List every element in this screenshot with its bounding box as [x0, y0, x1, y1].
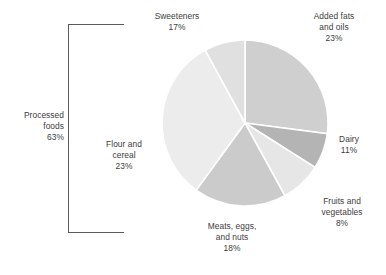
slice-label-added-fats-line2: and oils — [319, 22, 348, 32]
processed-foods-bracket — [68, 24, 124, 233]
slice-label-meats-eggs-and-nuts: Meats, eggs, and nuts 18% — [179, 221, 285, 255]
slice-label-flour-percent: 23% — [83, 161, 165, 172]
slice-label-meats-percent: 18% — [179, 243, 285, 254]
slice-label-fruits-line2: vegetables — [321, 207, 362, 217]
slice-label-added-fats-percent: 23% — [288, 33, 380, 44]
slice-label-sweeteners-text: Sweeteners — [155, 11, 200, 21]
slice-label-sweeteners: Sweeteners 17% — [131, 11, 223, 33]
slice-label-dairy-text: Dairy — [339, 134, 359, 144]
group-label-processed-foods: Processed foods 63% — [2, 110, 64, 144]
slice-label-meats-line1: Meats, eggs, — [208, 221, 257, 231]
slice-label-added-fats-line1: Added fats — [314, 11, 355, 21]
slice-label-fruits-line1: Fruits and — [323, 196, 361, 206]
slice-label-sweeteners-percent: 17% — [131, 22, 223, 33]
slice-label-meats-line2: and nuts — [216, 232, 249, 242]
slice-label-flour-line2: cereal — [112, 150, 135, 160]
slice-label-dairy: Dairy 11% — [318, 134, 380, 156]
pie-slice-added-fats-and-oils[interactable] — [245, 40, 328, 134]
group-label-processed-line1: Processed — [24, 110, 64, 120]
slice-label-added-fats-and-oils: Added fats and oils 23% — [288, 11, 380, 45]
slice-label-flour-and-cereal: Flour and cereal 23% — [83, 139, 165, 173]
slice-label-dairy-percent: 11% — [318, 145, 380, 156]
pie-slices — [162, 40, 328, 206]
slice-label-fruits-and-vegetables: Fruits and vegetables 8% — [300, 196, 384, 230]
slice-label-flour-line1: Flour and — [106, 139, 142, 149]
slice-label-fruits-percent: 8% — [300, 218, 384, 229]
group-label-processed-line2: foods — [43, 121, 64, 131]
group-label-processed-percent: 63% — [2, 132, 64, 143]
chart-canvas: Sweeteners 17% Added fats and oils 23% D… — [0, 0, 386, 275]
